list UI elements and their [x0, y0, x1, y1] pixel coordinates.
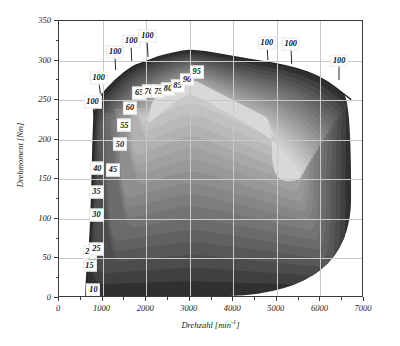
x-tick-mark	[276, 297, 277, 301]
y-tick-mark-minor	[56, 238, 59, 239]
figure-caption	[0, 334, 400, 346]
x-tick-mark	[102, 297, 103, 301]
contour-label-peak-100: 100	[83, 95, 101, 108]
x-tick-label: 2000	[137, 303, 154, 313]
contour-label-55: 55	[117, 119, 131, 132]
contour-label-peak-100: 100	[282, 37, 300, 50]
gridline-vertical	[277, 21, 278, 296]
contour-label-50: 50	[113, 138, 127, 151]
x-tick-label: 4000	[224, 303, 241, 313]
y-tick-mark	[54, 297, 58, 298]
gridline-horizontal	[59, 179, 362, 180]
x-tick-mark-minor	[80, 297, 81, 300]
y-tick-mark-minor	[56, 119, 59, 120]
y-tick-mark-minor	[56, 277, 59, 278]
y-tick-mark	[54, 218, 58, 219]
x-tick-mark	[319, 297, 320, 301]
x-tick-label: 1000	[93, 303, 110, 313]
contour-label-10: 10	[86, 284, 100, 297]
plot-area: 1015202530354045505560657075808590951001…	[58, 20, 363, 297]
y-tick-label: 0	[18, 292, 51, 302]
y-tick-mark	[54, 178, 58, 179]
gridline-horizontal	[59, 219, 362, 220]
y-tick-mark	[54, 99, 58, 100]
x-tick-mark-minor	[167, 297, 168, 300]
x-tick-mark	[58, 297, 59, 301]
contour-label-30: 30	[89, 208, 103, 221]
y-tick-mark	[54, 257, 58, 258]
y-tick-mark	[54, 60, 58, 61]
x-tick-mark-minor	[211, 297, 212, 300]
y-tick-mark	[54, 20, 58, 21]
y-tick-mark-minor	[56, 198, 59, 199]
x-tick-mark-minor	[341, 297, 342, 300]
contour-label-35: 35	[89, 185, 103, 198]
contour-label-15: 15	[82, 259, 96, 272]
x-tick-label: 0	[56, 303, 60, 313]
x-axis-title-base: Drehzahl [min	[181, 320, 231, 330]
gridline-vertical	[190, 21, 191, 296]
x-axis-title-tail: ]	[236, 320, 239, 330]
gridline-vertical	[146, 21, 147, 296]
contour-plot-canvas	[59, 21, 362, 296]
contour-label-40: 40	[90, 162, 104, 175]
x-tick-mark	[232, 297, 233, 301]
y-tick-label: 50	[18, 252, 51, 262]
gridline-vertical	[320, 21, 321, 296]
contour-label-60: 60	[123, 102, 137, 115]
x-tick-mark-minor	[298, 297, 299, 300]
contour-label-peak-100: 100	[138, 30, 156, 43]
gridline-vertical	[233, 21, 234, 296]
contour-label-95: 95	[190, 65, 204, 78]
gridline-horizontal	[59, 140, 362, 141]
x-tick-mark	[189, 297, 190, 301]
y-axis-title: Drehmoment [Nm]	[15, 95, 25, 215]
gridline-horizontal	[59, 258, 362, 259]
efficiency-map-figure: 1015202530354045505560657075808590951001…	[0, 0, 400, 346]
y-tick-mark	[54, 139, 58, 140]
contour-label-peak-100: 100	[330, 54, 348, 67]
y-tick-mark-minor	[56, 40, 59, 41]
x-tick-mark-minor	[254, 297, 255, 300]
gridline-horizontal	[59, 100, 362, 101]
contour-label-peak-100: 100	[258, 37, 276, 50]
x-tick-label: 3000	[180, 303, 197, 313]
x-axis-title: Drehzahl [min-1]	[58, 318, 363, 330]
x-tick-mark-minor	[123, 297, 124, 300]
y-tick-mark-minor	[56, 159, 59, 160]
contour-label-peak-100: 100	[106, 45, 124, 58]
y-tick-mark-minor	[56, 79, 59, 80]
x-tick-label: 6000	[311, 303, 328, 313]
x-tick-mark	[363, 297, 364, 301]
contour-label-peak-100: 100	[90, 72, 108, 85]
gridline-horizontal	[59, 61, 362, 62]
contour-label-25: 25	[89, 242, 103, 255]
y-tick-label: 350	[18, 15, 51, 25]
x-tick-label: 7000	[355, 303, 372, 313]
x-tick-label: 5000	[267, 303, 284, 313]
contour-label-45: 45	[106, 163, 120, 176]
x-tick-mark	[145, 297, 146, 301]
y-tick-label: 300	[18, 55, 51, 65]
